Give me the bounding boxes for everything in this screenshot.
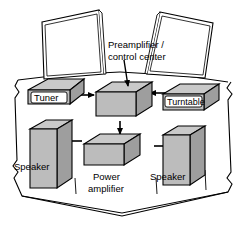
- speaker-right-label: Speaker: [150, 171, 185, 182]
- component-turntable[interactable]: Turntable: [163, 84, 219, 110]
- preamplifier-label-line1: Preamplifier /: [108, 39, 164, 50]
- power-amplifier-label-line2: amplifier: [88, 183, 124, 194]
- component-tuner[interactable]: Tuner: [28, 79, 84, 104]
- speaker-left-label: Speaker: [14, 161, 49, 172]
- component-speaker-left[interactable]: [30, 120, 72, 188]
- wall-panel-left: [42, 10, 106, 79]
- tuner-label: Tuner: [34, 92, 58, 103]
- turntable-label: Turntable: [167, 97, 205, 107]
- diagram-canvas: Tuner Turntable Preamplifier / control c…: [0, 0, 246, 235]
- stereo-system-diagram: Tuner Turntable Preamplifier / control c…: [0, 0, 246, 235]
- power-amplifier-label-line1: Power: [93, 171, 120, 182]
- component-power-amplifier[interactable]: [84, 134, 140, 165]
- preamplifier-label-line2: control center: [108, 51, 166, 62]
- component-preamplifier[interactable]: [96, 82, 152, 116]
